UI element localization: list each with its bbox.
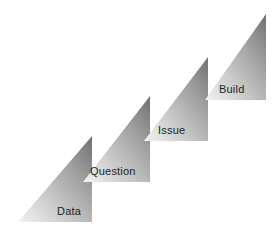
- step-label-issue: Issue: [158, 124, 185, 137]
- step-label-build: Build: [219, 83, 244, 96]
- step-label-data: Data: [57, 205, 81, 218]
- staircase-triangles-graphic: [0, 0, 279, 239]
- step-label-question: Question: [90, 165, 136, 178]
- diagram-canvas: Data Question Issue Build: [0, 0, 279, 239]
